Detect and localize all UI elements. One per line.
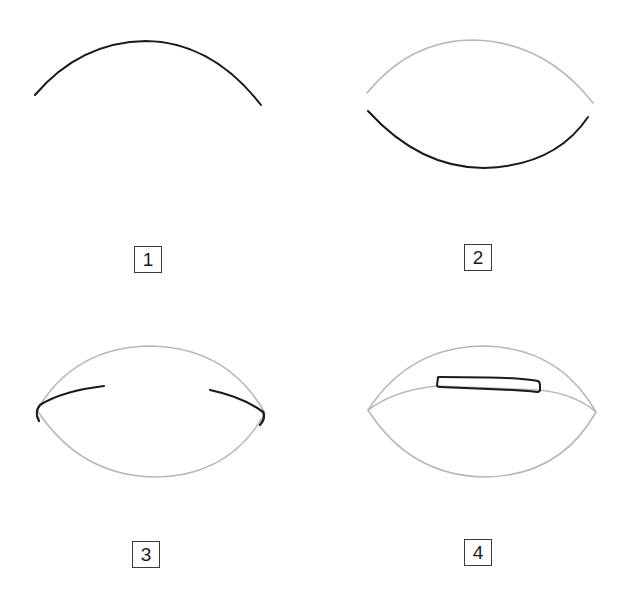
step-number-label-4: 4 bbox=[464, 539, 492, 566]
right-corner-stroke bbox=[210, 390, 264, 425]
middle-fold-guide bbox=[368, 386, 596, 412]
step-number-label-1: 1 bbox=[134, 246, 162, 273]
left-corner-stroke bbox=[37, 386, 104, 421]
step-number-label-2: 2 bbox=[464, 244, 492, 271]
lens-outline-guide bbox=[368, 346, 596, 477]
step-diagram bbox=[0, 0, 623, 598]
panel-1 bbox=[35, 41, 261, 105]
panel-4 bbox=[368, 346, 596, 477]
lens-outline-guide bbox=[37, 346, 265, 477]
panel-3 bbox=[37, 346, 265, 477]
upper-arc-stroke bbox=[35, 41, 261, 105]
step-number-label-3: 3 bbox=[132, 541, 160, 568]
lower-arc-stroke bbox=[368, 111, 588, 168]
upper-arc-guide bbox=[367, 40, 593, 103]
panel-2 bbox=[367, 40, 593, 168]
